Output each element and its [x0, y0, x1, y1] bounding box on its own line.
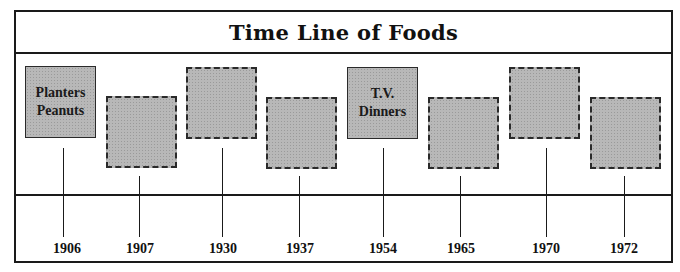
title-bar: Time Line of Foods	[16, 12, 671, 54]
stem-1965	[460, 176, 461, 237]
event-box-1907-blank[interactable]	[106, 96, 177, 168]
stem-1906	[63, 148, 64, 237]
stem-1930	[222, 148, 223, 237]
year-label: 1972	[594, 241, 654, 257]
event-label: T.V. Dinners	[359, 85, 406, 121]
year-label: 1906	[37, 241, 97, 257]
diagram-title: Time Line of Foods	[229, 20, 458, 45]
year-label: 1970	[516, 241, 576, 257]
event-box-1970-blank[interactable]	[509, 67, 580, 139]
stem-1972	[624, 176, 625, 237]
event-box-1965-blank[interactable]	[428, 97, 499, 169]
year-label: 1965	[431, 241, 491, 257]
event-box-1954: T.V. Dinners	[347, 67, 418, 139]
stem-1937	[299, 176, 300, 237]
stem-1907	[139, 176, 140, 237]
year-label: 1930	[193, 241, 253, 257]
year-label: 1954	[353, 241, 413, 257]
event-label: Planters Peanuts	[36, 84, 86, 120]
year-label: 1907	[110, 241, 170, 257]
event-box-1906: Planters Peanuts	[25, 66, 96, 138]
timeline-axis	[16, 194, 671, 196]
stem-1954	[383, 148, 384, 237]
event-box-1937-blank[interactable]	[266, 97, 337, 169]
event-box-1972-blank[interactable]	[590, 97, 661, 169]
stem-1970	[546, 148, 547, 237]
event-box-1930-blank[interactable]	[186, 67, 257, 139]
year-label: 1937	[270, 241, 330, 257]
